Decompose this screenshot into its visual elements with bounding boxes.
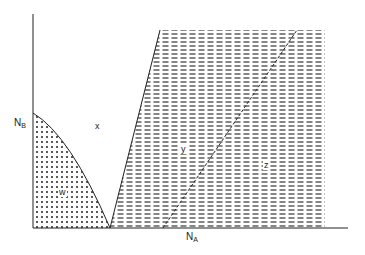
- region-x-label: x: [94, 122, 101, 131]
- region-y-label: y: [180, 145, 187, 154]
- x-axis-label: NA: [186, 232, 198, 243]
- y-axis-label: NB: [14, 118, 26, 129]
- region-z-label: z: [263, 161, 270, 170]
- region-yz-hatch: [110, 30, 325, 228]
- region-w-label: w: [58, 188, 67, 197]
- phase-diagram: [0, 0, 365, 255]
